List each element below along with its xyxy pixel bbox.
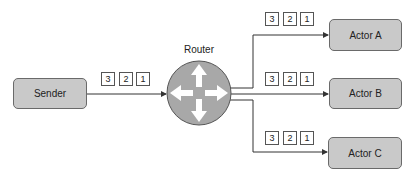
actor-b-node: Actor B <box>329 78 402 109</box>
packet: 2 <box>119 72 133 86</box>
sender-node: Sender <box>13 78 87 109</box>
actor-a-node: Actor A <box>329 19 402 51</box>
packet: 3 <box>265 131 279 145</box>
packet: 2 <box>283 72 297 86</box>
packet: 1 <box>300 72 314 86</box>
packet: 3 <box>101 72 115 86</box>
packet: 3 <box>265 12 279 26</box>
sender-label: Sender <box>34 88 66 99</box>
packet: 1 <box>300 131 314 145</box>
actor-b-label: Actor B <box>349 88 382 99</box>
router-node <box>167 61 231 125</box>
packet: 1 <box>300 12 314 26</box>
packet: 3 <box>265 72 279 86</box>
actor-c-label: Actor C <box>348 148 381 159</box>
packet: 2 <box>283 12 297 26</box>
actor-c-node: Actor C <box>328 137 402 169</box>
packet: 2 <box>283 131 297 145</box>
router-label: Router <box>174 44 224 55</box>
actor-a-label: Actor A <box>349 30 381 41</box>
packet: 1 <box>136 72 150 86</box>
